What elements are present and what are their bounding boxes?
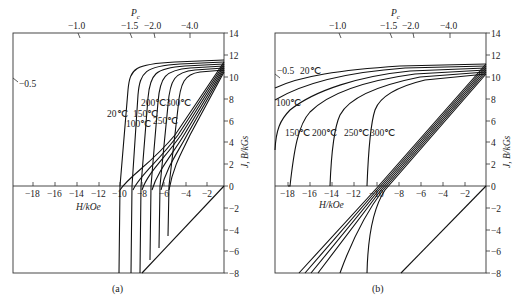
demagnetization-curves-figure: Pc −1.0 −1.5 −2.0 −4.0 −0.5 −18 −16 −14 … — [0, 0, 519, 308]
svg-text:−6: −6 — [491, 247, 501, 257]
svg-text:250℃: 250℃ — [344, 128, 369, 138]
svg-text:250℃: 250℃ — [153, 116, 178, 126]
j-curves-b — [275, 64, 486, 186]
svg-text:−2: −2 — [460, 189, 470, 199]
svg-text:10: 10 — [229, 73, 239, 83]
svg-text:10: 10 — [491, 73, 501, 83]
panel-b: Pc −1.0 −1.5 −2.0 −4.0 −0.5 −18 −16 −14 … — [275, 8, 512, 295]
pc-axis-label-b: Pc — [390, 8, 401, 21]
caption-b: (b) — [372, 283, 384, 295]
temp-labels-b: 20℃ 100℃ 150℃ 200℃ 250℃ 300℃ — [276, 66, 395, 138]
svg-text:−2.0: −2.0 — [144, 21, 161, 31]
svg-text:−6: −6 — [159, 189, 169, 199]
svg-text:−0.5: −0.5 — [277, 66, 294, 76]
temp-labels-a: 20℃ 100℃ 150℃ 200℃ 250℃ 300℃ — [107, 98, 191, 129]
svg-text:−4.0: −4.0 — [440, 21, 457, 31]
svg-text:4: 4 — [229, 138, 234, 148]
svg-text:−4.0: −4.0 — [181, 21, 198, 31]
svg-text:−2.0: −2.0 — [402, 21, 419, 31]
svg-text:8: 8 — [229, 95, 234, 105]
svg-text:−6: −6 — [229, 247, 239, 257]
svg-text:2: 2 — [229, 160, 234, 170]
svg-text:−16: −16 — [47, 189, 62, 199]
svg-text:−4: −4 — [491, 226, 501, 236]
y-axis-label-a: J, B/kGs — [240, 136, 250, 168]
svg-text:20℃: 20℃ — [300, 66, 321, 76]
svg-text:300℃: 300℃ — [370, 128, 395, 138]
svg-text:100℃: 100℃ — [126, 119, 151, 129]
svg-text:8: 8 — [491, 95, 496, 105]
svg-text:−1.5: −1.5 — [380, 21, 397, 31]
svg-text:−1.0: −1.0 — [329, 21, 346, 31]
svg-text:−1.0: −1.0 — [68, 21, 85, 31]
svg-text:12: 12 — [491, 51, 501, 61]
svg-text:14: 14 — [229, 29, 239, 39]
svg-text:−18: −18 — [280, 189, 295, 199]
svg-text:200℃: 200℃ — [141, 98, 166, 108]
svg-text:−18: −18 — [25, 189, 40, 199]
panel-a: Pc −1.0 −1.5 −2.0 −4.0 −0.5 −18 −16 −14 … — [13, 8, 250, 295]
svg-text:−12: −12 — [346, 189, 361, 199]
svg-text:12: 12 — [229, 51, 239, 61]
pc-axis-label-a: Pc — [130, 8, 141, 21]
svg-text:6: 6 — [229, 117, 234, 127]
svg-text:−8: −8 — [229, 269, 239, 279]
x-axis-label-b: H/kOe — [318, 200, 344, 210]
pc-ticks-a: −1.0 −1.5 −2.0 −4.0 −0.5 — [13, 21, 198, 89]
svg-text:14: 14 — [491, 29, 501, 39]
svg-text:−2: −2 — [202, 189, 212, 199]
y-axis-label-b: J, B/kGs — [502, 136, 512, 168]
svg-text:6: 6 — [491, 117, 496, 127]
x-axis-label-a: H/kOe — [75, 202, 101, 212]
svg-text:−14: −14 — [324, 189, 339, 199]
x-ticks-a: −18 −16 −14 −12 −10 −8 −6 −4 −2 — [25, 182, 212, 199]
svg-text:−0.5: −0.5 — [19, 79, 36, 89]
svg-text:−2: −2 — [229, 204, 239, 214]
svg-text:−16: −16 — [302, 189, 317, 199]
svg-text:−12: −12 — [91, 189, 106, 199]
svg-text:−4: −4 — [181, 189, 191, 199]
svg-text:−8: −8 — [394, 189, 404, 199]
svg-text:4: 4 — [491, 138, 496, 148]
caption-a: (a) — [112, 283, 123, 295]
svg-text:−8: −8 — [137, 189, 147, 199]
svg-text:100℃: 100℃ — [276, 98, 301, 108]
b-curves-a — [120, 62, 224, 273]
b-curves-b — [299, 64, 486, 273]
svg-text:−8: −8 — [491, 269, 501, 279]
plot-frame-a — [13, 33, 224, 273]
svg-text:−4: −4 — [229, 226, 239, 236]
svg-text:150℃: 150℃ — [285, 128, 310, 138]
svg-text:−1.5: −1.5 — [121, 21, 138, 31]
svg-text:300℃: 300℃ — [166, 98, 191, 108]
svg-text:−14: −14 — [69, 189, 84, 199]
y-ticks-b: 14 12 10 8 6 4 2 0 −2 −4 −6 −8 — [486, 29, 501, 279]
svg-text:−2: −2 — [491, 204, 501, 214]
svg-text:20℃: 20℃ — [107, 109, 128, 119]
svg-text:−4: −4 — [438, 189, 448, 199]
svg-text:−6: −6 — [416, 189, 426, 199]
svg-text:200℃: 200℃ — [312, 128, 337, 138]
svg-text:2: 2 — [491, 160, 496, 170]
svg-text:0: 0 — [491, 182, 496, 192]
y-ticks-a: 14 12 10 8 6 4 2 0 −2 −4 −6 −8 — [224, 29, 239, 279]
svg-text:0: 0 — [229, 182, 234, 192]
